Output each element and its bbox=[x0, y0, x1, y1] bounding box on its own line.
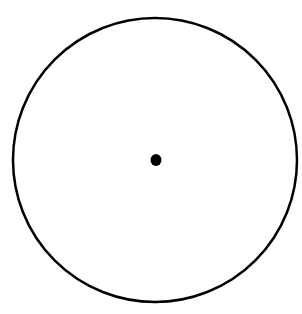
circle-diagram bbox=[0, 0, 302, 314]
diagram-canvas bbox=[0, 0, 302, 314]
center-point bbox=[151, 154, 162, 166]
